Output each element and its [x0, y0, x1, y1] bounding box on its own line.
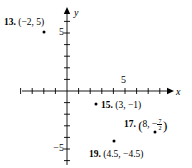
- y-axis-arrowhead: [64, 7, 70, 14]
- point-label-15: 15. (3, −1): [101, 101, 141, 111]
- point-number-17: 17.: [124, 120, 136, 130]
- point-dot-19: [113, 140, 116, 143]
- paren-close-17: ): [163, 119, 167, 132]
- coordinate-plane-figure: x y 5 −5 5 13. (−2, 5) 15. (3, −1) 17. (…: [0, 0, 192, 168]
- paren-open-17: (: [138, 119, 142, 132]
- point-label-17: 17. (8, −72): [124, 118, 167, 132]
- minus-sign-17: −: [152, 120, 157, 130]
- point-dot-15: [95, 103, 98, 106]
- point-label-13: 13. (−2, 5): [4, 18, 44, 28]
- y-axis-label: y: [74, 8, 78, 18]
- fraction-denominator-17: 2: [157, 124, 162, 131]
- point-coord-13: (−2, 5): [18, 17, 44, 27]
- y-tick-label-minus-5: −5: [51, 143, 64, 153]
- y-tick-label-5: 5: [56, 27, 64, 37]
- x-axis-arrowhead: [167, 88, 174, 94]
- x-axis-label: x: [176, 87, 180, 97]
- point-number-13: 13.: [4, 17, 16, 27]
- x-tick-label-5: 5: [121, 75, 126, 85]
- fraction-17: 72: [157, 118, 162, 132]
- point-number-19: 19.: [89, 149, 101, 159]
- point-coord-15: (3, −1): [115, 100, 141, 110]
- point-coord-x-17: 8,: [143, 120, 150, 130]
- point-number-15: 15.: [101, 100, 113, 110]
- point-dot-13: [43, 31, 46, 34]
- point-label-19: 19. (4.5, −4.5): [89, 150, 143, 160]
- point-coord-19: (4.5, −4.5): [103, 149, 143, 159]
